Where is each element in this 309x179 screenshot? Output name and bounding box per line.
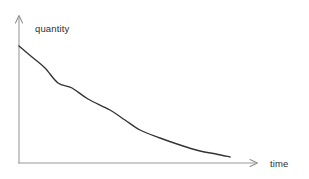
x-axis-label: time — [270, 159, 289, 169]
decay-curve-path — [19, 46, 230, 157]
y-axis-label: quantity — [35, 24, 69, 34]
diagram-canvas: quantity time — [0, 0, 309, 179]
